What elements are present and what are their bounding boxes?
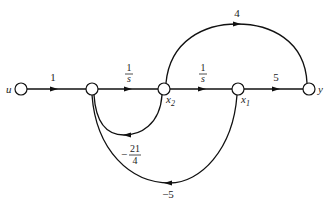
edge-u-n1 [27, 87, 86, 92]
svg-text:4: 4 [133, 155, 138, 166]
edge-x2-n1 [94, 95, 162, 138]
gain-u-n1: 1 [50, 71, 56, 83]
gain-x2-n1: − 21 4 [121, 143, 141, 166]
arrow-icon [233, 22, 241, 27]
arrow-icon [198, 87, 206, 92]
edge-x1-y [244, 87, 303, 92]
gain-x1-n1: −5 [162, 188, 174, 200]
edge-x2-y [166, 22, 307, 84]
node-n1 [86, 83, 98, 95]
node-label-x2: x2 [165, 93, 175, 108]
gain-x1-y: 5 [273, 71, 279, 83]
edge-x2-x1 [170, 87, 232, 92]
svg-text:−: − [121, 148, 127, 160]
gain-x2-x1: 1 s [199, 62, 207, 84]
node-u [15, 83, 27, 95]
svg-text:s: s [201, 73, 205, 84]
edge-n1-x2 [98, 87, 158, 92]
signal-flow-graph: u x2 x1 y 1 1 s 1 s 5 4 − 21 4 −5 [0, 0, 329, 204]
arrow-icon [123, 133, 131, 138]
arrow-icon [272, 87, 280, 92]
svg-text:s: s [127, 73, 131, 84]
svg-text:1: 1 [127, 62, 132, 73]
arrow-icon [50, 87, 58, 92]
node-y [303, 83, 315, 95]
arrow-icon [124, 87, 132, 92]
node-label-u: u [6, 83, 12, 95]
svg-text:1: 1 [201, 62, 206, 73]
arrow-icon [164, 181, 172, 186]
edge-x1-n1 [92, 95, 237, 186]
node-label-y: y [317, 83, 323, 95]
node-label-x1: x1 [240, 93, 250, 108]
svg-text:21: 21 [130, 143, 140, 154]
gain-n1-x2: 1 s [125, 62, 133, 84]
gain-x2-y: 4 [234, 7, 240, 19]
